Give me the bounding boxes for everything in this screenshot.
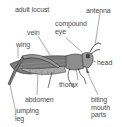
wing-label: wing: [16, 41, 30, 49]
biting-mouth-parts-label: biting mouth parts: [91, 96, 110, 119]
title-label: adult locust: [15, 6, 49, 14]
compound-eye-shape: [86, 53, 90, 58]
thorax-label: thorax: [59, 81, 78, 89]
head-label: head: [97, 59, 112, 67]
compound-eye-label: compound eye: [55, 20, 87, 35]
thorax-shape: [66, 54, 84, 70]
abdomen-label: abdomen: [25, 96, 54, 104]
jumping-leg-label: jumping leg: [15, 107, 39, 122]
antenna-label: antenna: [86, 7, 111, 15]
antenna-shape: [90, 43, 101, 54]
vein-label: vein: [27, 29, 39, 37]
